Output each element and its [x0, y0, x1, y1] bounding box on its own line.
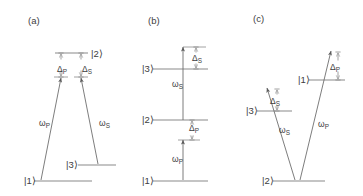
panels-group: (a)|1⟩|2⟩|3⟩ωPωSΔPΔS(b)|1⟩|2⟩|3⟩ωPωSΔSΔP…	[24, 13, 345, 186]
panel-c: (c)|2⟩|3⟩|1⟩ωSωPΔSΔP	[246, 13, 345, 186]
detuning-label-delta-pump: ΔP	[57, 64, 67, 75]
panel-label-b: (b)	[148, 15, 160, 26]
detuning-label-delta-pump: ΔP	[189, 123, 199, 134]
frequency-subscript-pump: P	[325, 123, 329, 130]
panel-label-c: (c)	[253, 13, 264, 24]
state-label-ket-1: |1⟩	[24, 175, 36, 186]
frequency-label-stokes: ωS	[172, 79, 183, 90]
transition-arrow-pump	[300, 51, 331, 180]
frequency-label-pump: ωP	[39, 118, 50, 129]
panel-label-a: (a)	[28, 15, 40, 26]
detuning-label-delta-stokes: ΔS	[82, 64, 92, 75]
frequency-subscript-stokes: S	[179, 83, 183, 90]
detuning-label-delta-pump: ΔP	[330, 62, 340, 73]
detuning-label-delta-stokes: ΔS	[192, 53, 202, 64]
transition-arrow-pump	[41, 78, 61, 180]
detuning-subscript-delta-stokes: S	[276, 100, 280, 107]
panel-a: (a)|1⟩|2⟩|3⟩ωPωSΔPΔS	[24, 15, 116, 186]
state-label-ket-2: |2⟩	[262, 175, 274, 186]
figure-container: (a)|1⟩|2⟩|3⟩ωPωSΔPΔS(b)|1⟩|2⟩|3⟩ωPωSΔSΔP…	[0, 0, 363, 196]
frequency-subscript-stokes: S	[286, 129, 290, 136]
detuning-label-delta-stokes: ΔS	[270, 96, 280, 107]
detuning-subscript-delta-pump: P	[195, 127, 199, 134]
panel-b: (b)|1⟩|2⟩|3⟩ωPωSΔSΔP	[142, 15, 208, 186]
state-label-ket-1: |1⟩	[142, 175, 154, 186]
detuning-subscript-delta-stokes: S	[88, 68, 92, 75]
frequency-label-pump: ωP	[318, 119, 329, 130]
frequency-subscript-stokes: S	[106, 122, 110, 129]
state-label-ket-2: |2⟩	[91, 48, 103, 59]
detuning-subscript-delta-pump: P	[336, 66, 340, 73]
frequency-label-stokes: ωS	[99, 118, 110, 129]
state-label-ket-3: |3⟩	[66, 159, 78, 170]
frequency-subscript-pump: P	[46, 122, 50, 129]
detuning-subscript-delta-stokes: S	[198, 57, 202, 64]
state-label-ket-3: |3⟩	[142, 63, 154, 74]
transition-arrow-stokes	[81, 78, 98, 164]
frequency-subscript-pump: P	[179, 158, 183, 165]
energy-level-diagram-svg: (a)|1⟩|2⟩|3⟩ωPωSΔPΔS(b)|1⟩|2⟩|3⟩ωPωSΔSΔP…	[0, 0, 363, 196]
state-label-ket-3: |3⟩	[246, 105, 258, 116]
state-label-ket-1: |1⟩	[298, 74, 310, 85]
frequency-label-pump: ωP	[172, 154, 183, 165]
detuning-subscript-delta-pump: P	[63, 68, 67, 75]
frequency-label-stokes: ωS	[279, 125, 290, 136]
state-label-ket-2: |2⟩	[142, 114, 154, 125]
